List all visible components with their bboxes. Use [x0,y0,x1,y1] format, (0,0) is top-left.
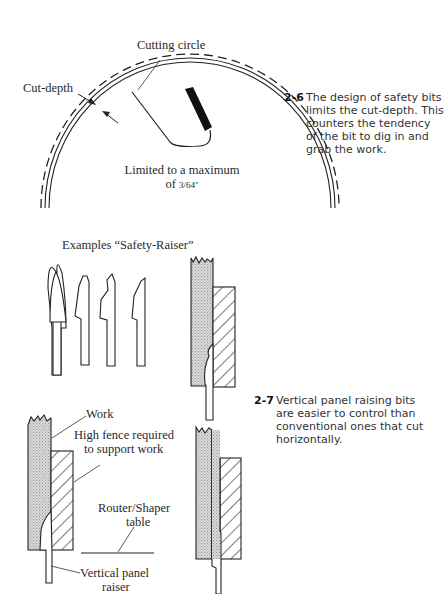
vertical-raiser-label-line2: raiser [102,580,130,594]
limit-label-line2: of 3/64" [112,177,252,192]
safety-raiser-examples [48,265,145,375]
work-piece [196,427,212,559]
caption-2-6: 2-6 The design of safety bits limits the… [284,91,444,156]
bit-example-3 [100,274,115,366]
vertical-raiser-label-line1: Vertical panel [80,566,149,580]
examples-title: Examples “Safety-Raiser” [62,238,194,252]
lower-right-setup [196,427,241,594]
fence [220,458,241,559]
fraction-value: 3/64" [179,180,199,190]
cutting-circle-label: Cutting circle [137,38,205,52]
limit-label-line1: Limited to a maximum [112,163,252,177]
high-fence-label-line2: to support work [84,442,163,456]
caption-text: Vertical panel raising bits are easier t… [276,394,424,446]
caption-text: The design of safety bits limits the cut… [306,91,444,156]
high-fence-label-line1: High fence required [74,428,174,442]
carbide-cutter [185,87,212,131]
cut-depth-label: Cut-depth [23,81,73,95]
upper-raising-setup [191,257,235,420]
high-fence [51,451,73,550]
fence [213,287,235,387]
caption-number: 2-6 [284,91,304,104]
work-label: Work [86,407,113,421]
caption-number: 2-7 [254,394,274,407]
caption-2-7: 2-7 Vertical panel raising bits are easi… [254,394,424,446]
bit-example-2 [75,276,89,365]
bit-example-4 [132,278,145,366]
router-table-label-line2: table [126,515,150,529]
router-table-label-line1: Router/Shaper [98,501,170,515]
